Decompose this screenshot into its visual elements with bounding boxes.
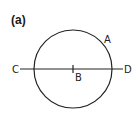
point-label-a: A (104, 34, 111, 45)
panel-label: (a) (11, 14, 26, 26)
point-label-c: C (12, 64, 19, 75)
geometry-figure: (a) A B C D (0, 0, 139, 119)
point-label-b: B (75, 72, 82, 83)
point-label-d: D (124, 64, 132, 75)
